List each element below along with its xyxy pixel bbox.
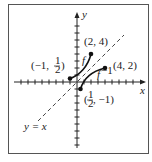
label-point-4-2: (4, 2) <box>113 59 137 72</box>
point-finv-start <box>78 87 83 92</box>
label-point-half-neg1-rest: , −1) <box>93 93 114 106</box>
line-y-equals-x <box>38 35 124 121</box>
point-f-end <box>89 52 94 57</box>
label-point-neg1-half-den: 2 <box>55 63 61 75</box>
label-point-neg1-half-open: (−1, <box>31 59 49 72</box>
y-axis-arrow-icon <box>75 12 80 18</box>
point-f-start <box>68 76 73 81</box>
label-point-neg1-half-close: ) <box>61 59 65 72</box>
label-point-2-4: (2, 4) <box>84 35 108 48</box>
curve-f <box>70 54 91 79</box>
label-f-inverse-sup: −1 <box>101 64 113 76</box>
label-y-equals-x: y = x <box>23 120 47 132</box>
y-axis-label: y <box>81 8 87 20</box>
x-axis-label: x <box>139 84 145 96</box>
chart-svg: y x (2, 4) (−1, 1 2 ) (4, 2) ( 1 2 , −1)… <box>0 0 152 162</box>
